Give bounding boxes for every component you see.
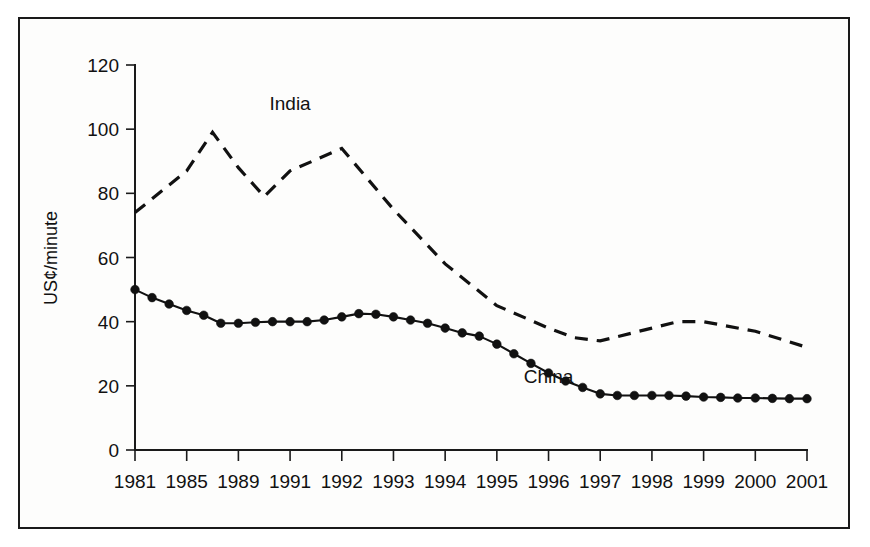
annotation-layer: IndiaChina (269, 93, 573, 387)
x-tick-label: 1996 (527, 471, 569, 492)
series-layer (131, 132, 812, 403)
x-tick-label: 1995 (476, 471, 518, 492)
series-marker-china (251, 318, 260, 327)
series-marker-china (372, 310, 381, 319)
series-marker-china (458, 329, 467, 338)
series-marker-china (733, 394, 742, 403)
series-marker-china (389, 313, 398, 322)
x-tick-label: 1981 (114, 471, 156, 492)
series-marker-china (165, 300, 174, 309)
series-marker-china (510, 349, 519, 358)
series-marker-china (803, 394, 812, 403)
series-marker-china (406, 316, 415, 325)
series-marker-china (475, 332, 484, 341)
series-marker-china (648, 391, 657, 400)
series-marker-china (148, 293, 157, 302)
series-marker-china (199, 311, 208, 320)
series-marker-china (355, 309, 364, 318)
x-tick-label: 1992 (321, 471, 363, 492)
x-tick-label: 1989 (217, 471, 259, 492)
series-marker-china (423, 319, 432, 328)
y-tick-label: 0 (108, 440, 119, 461)
series-marker-china (441, 324, 450, 333)
y-axis: 020406080100120 (87, 55, 135, 461)
series-marker-china (337, 313, 346, 322)
y-axis-title: US¢/minute (41, 211, 61, 305)
series-marker-china (751, 394, 760, 403)
series-marker-china (785, 394, 794, 403)
series-marker-china (234, 319, 243, 328)
series-marker-china (217, 319, 226, 328)
y-tick-label: 40 (98, 312, 119, 333)
series-marker-china (716, 393, 725, 402)
series-marker-china (320, 316, 329, 325)
series-marker-china (131, 285, 140, 294)
series-marker-china (768, 394, 777, 403)
x-tick-label: 1985 (166, 471, 208, 492)
line-chart: 020406080100120 198119851989199119921993… (0, 0, 870, 547)
y-tick-label: 60 (98, 248, 119, 269)
x-tick-label: 1991 (269, 471, 311, 492)
y-tick-label: 100 (87, 119, 119, 140)
series-marker-china (596, 390, 605, 399)
x-tick-label: 1999 (682, 471, 724, 492)
series-marker-china (182, 306, 191, 315)
x-tick-label: 1994 (424, 471, 467, 492)
x-tick-label: 2001 (786, 471, 828, 492)
chart-figure-root: 020406080100120 198119851989199119921993… (0, 0, 870, 547)
x-tick-label: 2000 (734, 471, 776, 492)
series-marker-china (578, 383, 587, 392)
series-marker-china (630, 391, 639, 400)
series-marker-china (699, 393, 708, 402)
y-tick-label: 80 (98, 183, 119, 204)
series-marker-china (286, 317, 295, 326)
series-annotation-india: India (269, 93, 311, 114)
series-line-china (135, 290, 807, 399)
series-marker-china (493, 340, 502, 349)
series-line-india (135, 132, 807, 347)
series-marker-china (303, 317, 312, 326)
series-marker-china (268, 317, 277, 326)
series-marker-china (665, 391, 674, 400)
series-annotation-china: China (524, 366, 574, 387)
x-axis: 1981198519891991199219931994199519961997… (114, 450, 828, 492)
y-tick-label: 120 (87, 55, 119, 76)
series-marker-china (613, 391, 622, 400)
x-tick-label: 1993 (372, 471, 414, 492)
series-marker-china (682, 392, 691, 401)
x-tick-label: 1998 (631, 471, 673, 492)
x-tick-label: 1997 (579, 471, 621, 492)
y-tick-label: 20 (98, 376, 119, 397)
